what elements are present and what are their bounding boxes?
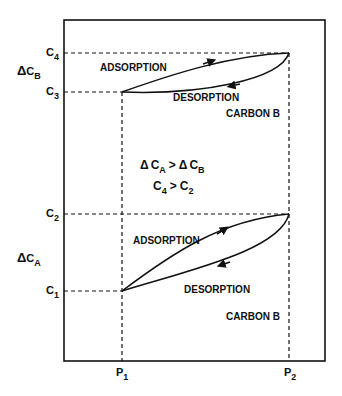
upper-desorption-label: DESORPTION <box>173 92 239 103</box>
lower-desorption-label: DESORPTION <box>184 284 250 295</box>
delta-ca-label: ΔCA <box>17 250 41 268</box>
tick-c1: C1 <box>46 284 59 300</box>
relation-c4-c2: C4>C2 <box>153 179 193 196</box>
lower-desorption-curve <box>122 214 289 291</box>
relation-delta: ΔCA>ΔCB <box>140 158 205 175</box>
tick-c3: C3 <box>46 85 59 101</box>
lower-desorption-arrow-icon <box>221 262 230 265</box>
upper-carbon-label: CARBON B <box>226 108 280 119</box>
lower-hysteresis-loop <box>122 214 289 291</box>
upper-adsorption-label: ADSORPTION <box>100 62 167 73</box>
tick-c2: C2 <box>46 207 59 223</box>
tick-p1: P1 <box>116 366 128 382</box>
lower-adsorption-curve <box>122 214 289 291</box>
hysteresis-diagram: C4 C3 C2 C1 P1 P2 ΔCB ΔCA ADSORPTION DES… <box>0 0 342 396</box>
delta-cb-label: ΔCB <box>17 63 41 81</box>
lower-adsorption-label: ADSORPTION <box>133 235 200 246</box>
tick-c4: C4 <box>46 46 59 62</box>
tick-p2: P2 <box>284 366 296 382</box>
upper-adsorption-arrow-icon <box>203 61 212 64</box>
lower-carbon-label: CARBON B <box>226 311 280 322</box>
